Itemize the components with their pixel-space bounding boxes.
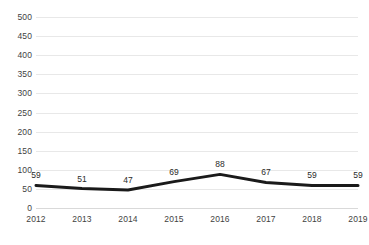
- y-axis-tick-label: 100: [0, 166, 32, 175]
- data-point-label: 69: [169, 167, 179, 176]
- x-axis-tick-label: 2016: [210, 215, 229, 224]
- data-point-labels: 5951476988675959: [36, 17, 358, 208]
- data-point-label: 47: [123, 176, 133, 185]
- data-point-label: 59: [31, 171, 41, 180]
- y-axis-tick-label: 500: [0, 13, 32, 22]
- x-axis-tick-label: 2012: [26, 215, 45, 224]
- y-axis-tick-label: 150: [0, 146, 32, 155]
- data-point-label: 59: [353, 171, 363, 180]
- y-axis-tick-label: 250: [0, 108, 32, 117]
- y-axis-tick-label: 0: [0, 204, 32, 213]
- y-axis-tick-label: 350: [0, 70, 32, 79]
- x-axis-tick-label: 2014: [118, 215, 137, 224]
- gridline: [36, 208, 358, 209]
- y-axis-tick-label: 450: [0, 32, 32, 41]
- y-axis-tick-labels: 050100150200250300350400450500: [0, 17, 32, 208]
- y-axis-tick-label: 200: [0, 127, 32, 136]
- y-axis-tick-label: 50: [0, 185, 32, 194]
- x-axis-tick-label: 2017: [256, 215, 275, 224]
- x-axis-tick-label: 2015: [164, 215, 183, 224]
- x-axis-tick-labels: 20122013201420152016201720182019: [36, 215, 358, 231]
- line-chart: 050100150200250300350400450500 595147698…: [0, 0, 369, 245]
- y-axis-tick-label: 400: [0, 51, 32, 60]
- x-axis-tick-label: 2018: [302, 215, 321, 224]
- data-point-label: 88: [215, 160, 225, 169]
- data-point-label: 59: [307, 171, 317, 180]
- data-point-label: 51: [77, 174, 87, 183]
- y-axis-tick-label: 300: [0, 89, 32, 98]
- data-point-label: 67: [261, 168, 271, 177]
- x-axis-tick-label: 2019: [348, 215, 367, 224]
- x-axis-tick-label: 2013: [72, 215, 91, 224]
